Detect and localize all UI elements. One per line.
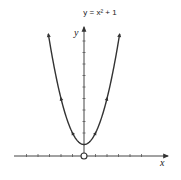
x-axis-label: x: [159, 157, 165, 168]
origin-marker: [81, 153, 87, 159]
y-axis-label: y: [73, 27, 79, 38]
chart-title: y = x² + 1: [83, 8, 117, 17]
axes: [14, 27, 168, 156]
parabola-chart: y = x² + 1 y x: [0, 0, 181, 180]
